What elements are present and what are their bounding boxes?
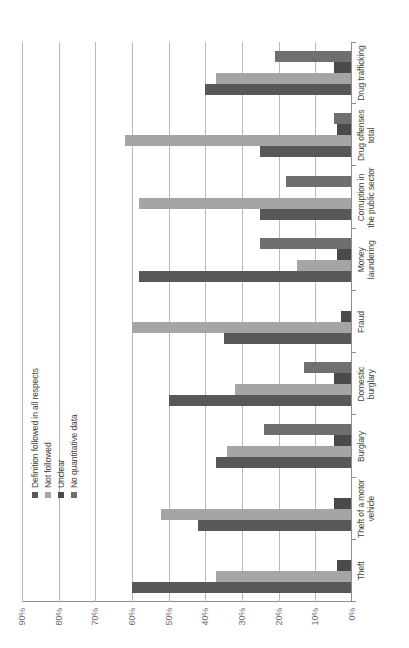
bars xyxy=(22,42,352,104)
y-axis-tick-80: 80% xyxy=(54,608,64,625)
bar[interactable] xyxy=(216,73,352,84)
category-label: Drug trafficking xyxy=(356,42,402,104)
legend-item[interactable]: No quantitative data xyxy=(69,368,79,498)
bar[interactable] xyxy=(334,373,352,384)
bar[interactable] xyxy=(205,84,352,95)
bars xyxy=(22,104,352,166)
plot-area xyxy=(22,42,352,602)
legend-swatch-icon xyxy=(71,492,77,498)
y-axis-tick-10: 10% xyxy=(310,608,320,625)
bar[interactable] xyxy=(337,124,352,135)
legend-label: No quantitative data xyxy=(69,414,79,488)
legend-swatch-icon xyxy=(58,492,64,498)
bar[interactable] xyxy=(334,113,352,124)
category-label: Burglary xyxy=(356,415,402,477)
y-axis-tick-50: 50% xyxy=(164,608,174,625)
legend-item[interactable]: Definition followed in all respects xyxy=(30,368,40,498)
category-label: Money laundering xyxy=(356,229,402,291)
bar[interactable] xyxy=(227,446,352,457)
bar-group xyxy=(22,166,352,228)
bar-group xyxy=(22,540,352,602)
bar[interactable] xyxy=(125,135,352,146)
bar-group xyxy=(22,42,352,104)
legend-swatch-icon xyxy=(32,492,38,498)
bar[interactable] xyxy=(132,582,352,593)
bar[interactable] xyxy=(139,198,352,209)
bar[interactable] xyxy=(198,520,352,531)
y-axis-tick-labels: 90%80%70%60%50%40%30%20%10%0% xyxy=(22,602,352,648)
bar[interactable] xyxy=(334,62,352,73)
bar[interactable] xyxy=(260,238,352,249)
bar[interactable] xyxy=(334,435,352,446)
bar[interactable] xyxy=(334,498,352,509)
category-label: Fraud xyxy=(356,291,402,353)
bar[interactable] xyxy=(161,509,352,520)
bar[interactable] xyxy=(337,560,352,571)
x-axis-category-labels: TheftTheft of a motor vehicleBurglaryDom… xyxy=(356,42,402,602)
y-axis-tick-0: 0% xyxy=(347,608,357,621)
rotated-chart-wrapper: 90%80%70%60%50%40%30%20%10%0% TheftTheft… xyxy=(0,0,409,648)
y-axis-tick-60: 60% xyxy=(127,608,137,625)
bar[interactable] xyxy=(304,362,352,373)
bar-group xyxy=(22,104,352,166)
y-axis-tick-40: 40% xyxy=(200,608,210,625)
category-label: Domestic burglary xyxy=(356,353,402,415)
legend-label: Definition followed in all respects xyxy=(30,368,40,488)
legend-item[interactable]: Unclear xyxy=(56,368,66,498)
legend-label: Not followed xyxy=(43,442,53,488)
y-axis-tick-90: 90% xyxy=(17,608,27,625)
bar[interactable] xyxy=(260,209,352,220)
bar[interactable] xyxy=(139,271,352,282)
bar[interactable] xyxy=(235,384,352,395)
bar[interactable] xyxy=(275,51,352,62)
category-label: Theft of a motor vehicle xyxy=(356,478,402,540)
bars xyxy=(22,229,352,291)
bars xyxy=(22,166,352,228)
legend-item[interactable]: Not followed xyxy=(43,368,53,498)
bar[interactable] xyxy=(297,260,352,271)
category-label: Corruption in the public sector xyxy=(356,166,402,228)
bar[interactable] xyxy=(216,457,352,468)
y-axis-tick-70: 70% xyxy=(90,608,100,625)
bar[interactable] xyxy=(216,571,352,582)
bar[interactable] xyxy=(132,322,352,333)
bar[interactable] xyxy=(224,333,352,344)
bars xyxy=(22,540,352,602)
bar[interactable] xyxy=(169,395,352,406)
chart-figure: 90%80%70%60%50%40%30%20%10%0% TheftTheft… xyxy=(0,0,409,648)
bars xyxy=(22,291,352,353)
legend-swatch-icon xyxy=(45,492,51,498)
bar[interactable] xyxy=(264,424,352,435)
bar-group xyxy=(22,291,352,353)
category-label: Theft xyxy=(356,540,402,602)
bar[interactable] xyxy=(286,176,352,187)
bar[interactable] xyxy=(337,249,352,260)
bar[interactable] xyxy=(260,146,352,157)
bar-groups xyxy=(22,42,352,602)
legend-label: Unclear xyxy=(56,459,66,488)
y-axis-tick-30: 30% xyxy=(237,608,247,625)
bar-group xyxy=(22,229,352,291)
y-axis-tick-20: 20% xyxy=(274,608,284,625)
x-axis-line xyxy=(351,42,352,602)
chart-legend: Definition followed in all respectsNot f… xyxy=(30,368,79,498)
category-label: Drug offenses total xyxy=(356,104,402,166)
